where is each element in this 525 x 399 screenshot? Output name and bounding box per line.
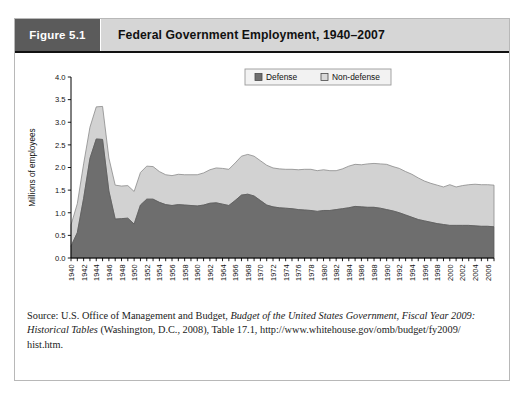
source-line3: hist.htm. bbox=[27, 339, 63, 350]
x-axis-tick-label: 1986 bbox=[357, 265, 366, 281]
x-axis-tick-label: 1950 bbox=[130, 265, 139, 281]
y-axis-tick-label: 3.0 bbox=[55, 118, 66, 127]
source-note: Source: U.S. Office of Management and Bu… bbox=[27, 309, 499, 352]
x-axis-tick-label: 1940 bbox=[67, 265, 76, 281]
x-axis-tick-label: 1984 bbox=[345, 265, 354, 281]
legend-label-non-defense: Non-defense bbox=[332, 72, 380, 82]
x-axis-tick-label: 1998 bbox=[433, 265, 442, 281]
x-axis-tick-label: 1964 bbox=[219, 265, 228, 281]
x-axis-tick-label: 1980 bbox=[320, 265, 329, 281]
x-axis-tick-label: 1982 bbox=[332, 265, 341, 281]
x-axis-tick-label: 1960 bbox=[193, 265, 202, 281]
page-title: Federal Government Employment, 1940–2007 bbox=[118, 28, 385, 42]
legend-label-defense: Defense bbox=[266, 72, 298, 82]
y-axis-tick-label: 3.5 bbox=[55, 95, 66, 104]
legend-swatch-defense bbox=[255, 74, 262, 81]
y-axis-tick-label: 2.0 bbox=[55, 163, 66, 172]
x-axis-tick-label: 1976 bbox=[294, 265, 303, 281]
source-line2-rest: (Washington, D.C., 2008), Table 17.1, ht… bbox=[98, 324, 461, 335]
x-axis-tick-label: 1944 bbox=[92, 265, 101, 281]
x-axis-tick-label: 1952 bbox=[143, 265, 152, 281]
x-axis-tick-label: 1994 bbox=[408, 265, 417, 281]
x-axis-tick-label: 1956 bbox=[168, 265, 177, 281]
x-axis-tick-label: 2002 bbox=[458, 265, 467, 281]
figure-number-label: Figure 5.1 bbox=[29, 29, 85, 41]
figure-card: Figure 5.1 Federal Government Employment… bbox=[14, 18, 510, 381]
figure-header: Figure 5.1 Federal Government Employment… bbox=[15, 19, 509, 53]
y-axis-tick-label: 0.0 bbox=[55, 254, 66, 263]
source-line2-italic: Historical Tables bbox=[27, 324, 98, 335]
stacked-area-chart: 0.00.51.01.52.02.53.03.54.0Millions of e… bbox=[15, 55, 509, 308]
x-axis-tick-label: 1954 bbox=[155, 265, 164, 281]
x-axis-tick-label: 2000 bbox=[446, 265, 455, 281]
x-axis-tick-label: 1958 bbox=[181, 265, 190, 281]
figure-title-bar: Federal Government Employment, 1940–2007 bbox=[100, 19, 509, 51]
x-axis-tick-label: 2006 bbox=[484, 265, 493, 281]
x-axis-tick-label: 1992 bbox=[395, 265, 404, 281]
x-axis-tick-label: 1948 bbox=[118, 265, 127, 281]
y-axis-tick-label: 1.5 bbox=[55, 186, 66, 195]
y-axis-tick-label: 4.0 bbox=[55, 73, 66, 82]
y-axis-tick-label: 0.5 bbox=[55, 231, 66, 240]
x-axis-tick-label: 1972 bbox=[269, 265, 278, 281]
figure-number-badge: Figure 5.1 bbox=[15, 19, 100, 51]
x-axis-tick-label: 1942 bbox=[80, 265, 89, 281]
y-axis-title: Millions of employees bbox=[28, 128, 37, 206]
y-axis-tick-label: 2.5 bbox=[55, 141, 66, 150]
x-axis-tick-label: 1978 bbox=[307, 265, 316, 281]
source-line1-italic: Budget of the United States Government, … bbox=[230, 310, 475, 321]
legend-swatch-non-defense bbox=[321, 74, 328, 81]
x-axis-tick-label: 1990 bbox=[383, 265, 392, 281]
x-axis-tick-label: 1974 bbox=[282, 265, 291, 281]
chart-plot-region: 0.00.51.01.52.02.53.03.54.0Millions of e… bbox=[15, 55, 509, 308]
x-axis-tick-label: 1970 bbox=[256, 265, 265, 281]
x-axis-tick-label: 1946 bbox=[105, 265, 114, 281]
y-axis-tick-label: 1.0 bbox=[55, 209, 66, 218]
x-axis-tick-label: 1966 bbox=[231, 265, 240, 281]
source-line1-prefix: Source: U.S. Office of Management and Bu… bbox=[27, 310, 230, 321]
x-axis-tick-label: 1996 bbox=[421, 265, 430, 281]
x-axis-tick-label: 2004 bbox=[471, 265, 480, 281]
x-axis-tick-label: 1968 bbox=[244, 265, 253, 281]
x-axis-tick-label: 1962 bbox=[206, 265, 215, 281]
x-axis-tick-label: 1988 bbox=[370, 265, 379, 281]
